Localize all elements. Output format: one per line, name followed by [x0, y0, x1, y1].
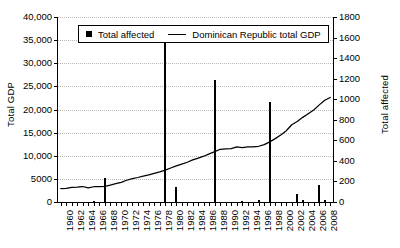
x-axis-tick [281, 202, 282, 206]
x-axis-tick [319, 202, 320, 206]
x-axis-tick [83, 202, 84, 206]
x-axis-label: 1972 [131, 210, 141, 231]
x-axis-tick [237, 202, 238, 206]
x-axis-label: 2008 [329, 210, 339, 231]
x-axis-tick [286, 202, 287, 206]
x-axis-label: 1968 [109, 210, 119, 231]
y-axis-left-label: 35,000 [23, 35, 52, 45]
y-axis-right-tick [333, 181, 337, 182]
y-axis-right-label: 1400 [339, 53, 360, 63]
y-axis-left-label: 0 [47, 197, 52, 207]
x-axis-tick [154, 202, 155, 206]
x-axis-tick [292, 202, 293, 206]
y-axis-left-label: 15,000 [23, 128, 52, 138]
x-axis-tick [176, 202, 177, 206]
legend-line-swatch [168, 34, 186, 35]
x-axis-label: 1970 [120, 210, 130, 231]
x-axis-tick [121, 202, 122, 206]
x-axis-label: 1978 [164, 210, 174, 231]
y-axis-right-label: 0 [339, 197, 344, 207]
x-axis-tick [231, 202, 232, 206]
plot-area: 0500010,00015,00020,00025,00030,00035,00… [57, 17, 334, 203]
y-axis-left-label: 5000 [31, 174, 52, 184]
x-axis-tick [116, 202, 117, 206]
x-axis-label: 1964 [87, 210, 97, 231]
x-axis-label: 2002 [296, 210, 306, 231]
x-axis-tick [248, 202, 249, 206]
x-axis-tick [149, 202, 150, 206]
x-axis-label: 1980 [175, 210, 185, 231]
y-axis-left-title: Total GDP [5, 73, 16, 137]
x-axis-tick [138, 202, 139, 206]
x-axis-tick [72, 202, 73, 206]
x-axis-tick [314, 202, 315, 206]
x-axis-tick [61, 202, 62, 206]
x-axis-tick [143, 202, 144, 206]
x-axis-tick [99, 202, 100, 206]
x-axis-label: 1988 [219, 210, 229, 231]
y-axis-left-label: 40,000 [23, 12, 52, 22]
y-axis-left-label: 10,000 [23, 151, 52, 161]
y-axis-right-tick [333, 58, 337, 59]
legend-bar-swatch [86, 31, 92, 37]
x-axis-label: 1994 [252, 210, 262, 231]
x-axis-label: 1960 [65, 210, 75, 231]
x-axis-label: 1996 [263, 210, 273, 231]
x-axis-label: 1976 [153, 210, 163, 231]
legend-label-total-affected: Total affected [98, 29, 154, 40]
x-axis-label: 1986 [208, 210, 218, 231]
x-axis-label: 1982 [186, 210, 196, 231]
y-axis-left-label: 20,000 [23, 105, 52, 115]
chart-container: Total GDP Total affected 0500010,00015,0… [0, 0, 400, 248]
x-axis-tick [275, 202, 276, 206]
x-axis-tick [182, 202, 183, 206]
x-axis-tick [209, 202, 210, 206]
y-axis-right-tick [333, 140, 337, 141]
y-axis-right-tick [333, 38, 337, 39]
y-axis-right-label: 400 [339, 156, 355, 166]
x-axis-tick [242, 202, 243, 206]
x-axis-tick [270, 202, 271, 206]
y-axis-right-label: 1800 [339, 12, 360, 22]
y-axis-left-label: 30,000 [23, 58, 52, 68]
x-axis-tick [193, 202, 194, 206]
x-axis-label: 1992 [241, 210, 251, 231]
x-axis-tick [165, 202, 166, 206]
x-axis-tick [226, 202, 227, 206]
y-axis-right-tick [333, 202, 337, 203]
y-axis-right-label: 1600 [339, 33, 360, 43]
x-axis-label: 1998 [274, 210, 284, 231]
x-axis-tick [187, 202, 188, 206]
y-axis-right-tick [333, 79, 337, 80]
x-axis-tick [215, 202, 216, 206]
x-axis-label: 2004 [307, 210, 317, 231]
x-axis-tick [105, 202, 106, 206]
y-axis-right-tick [333, 99, 337, 100]
y-axis-right-tick [333, 17, 337, 18]
x-axis-tick [110, 202, 111, 206]
x-axis-tick [259, 202, 260, 206]
y-axis-right-tick [333, 161, 337, 162]
x-axis-tick [88, 202, 89, 206]
x-axis-tick [127, 202, 128, 206]
y-axis-right-label: 1200 [339, 74, 360, 84]
y-axis-right-label: 600 [339, 135, 355, 145]
legend-label-gdp: Dominican Republic total GDP [192, 29, 320, 40]
x-axis-tick [132, 202, 133, 206]
x-axis-tick [160, 202, 161, 206]
x-axis-label: 1962 [76, 210, 86, 231]
y-axis-right-tick [333, 120, 337, 121]
line-series-gdp [58, 17, 333, 202]
y-axis-right-title: Total affected [379, 73, 390, 137]
x-axis-label: 1966 [98, 210, 108, 231]
x-axis-tick [198, 202, 199, 206]
x-axis-tick [94, 202, 95, 206]
x-axis-tick [171, 202, 172, 206]
x-axis-tick [77, 202, 78, 206]
x-axis-tick [264, 202, 265, 206]
x-axis-label: 2000 [285, 210, 295, 231]
x-axis-tick [220, 202, 221, 206]
x-axis-tick [308, 202, 309, 206]
x-axis-label: 1990 [230, 210, 240, 231]
x-axis-label: 1974 [142, 210, 152, 231]
